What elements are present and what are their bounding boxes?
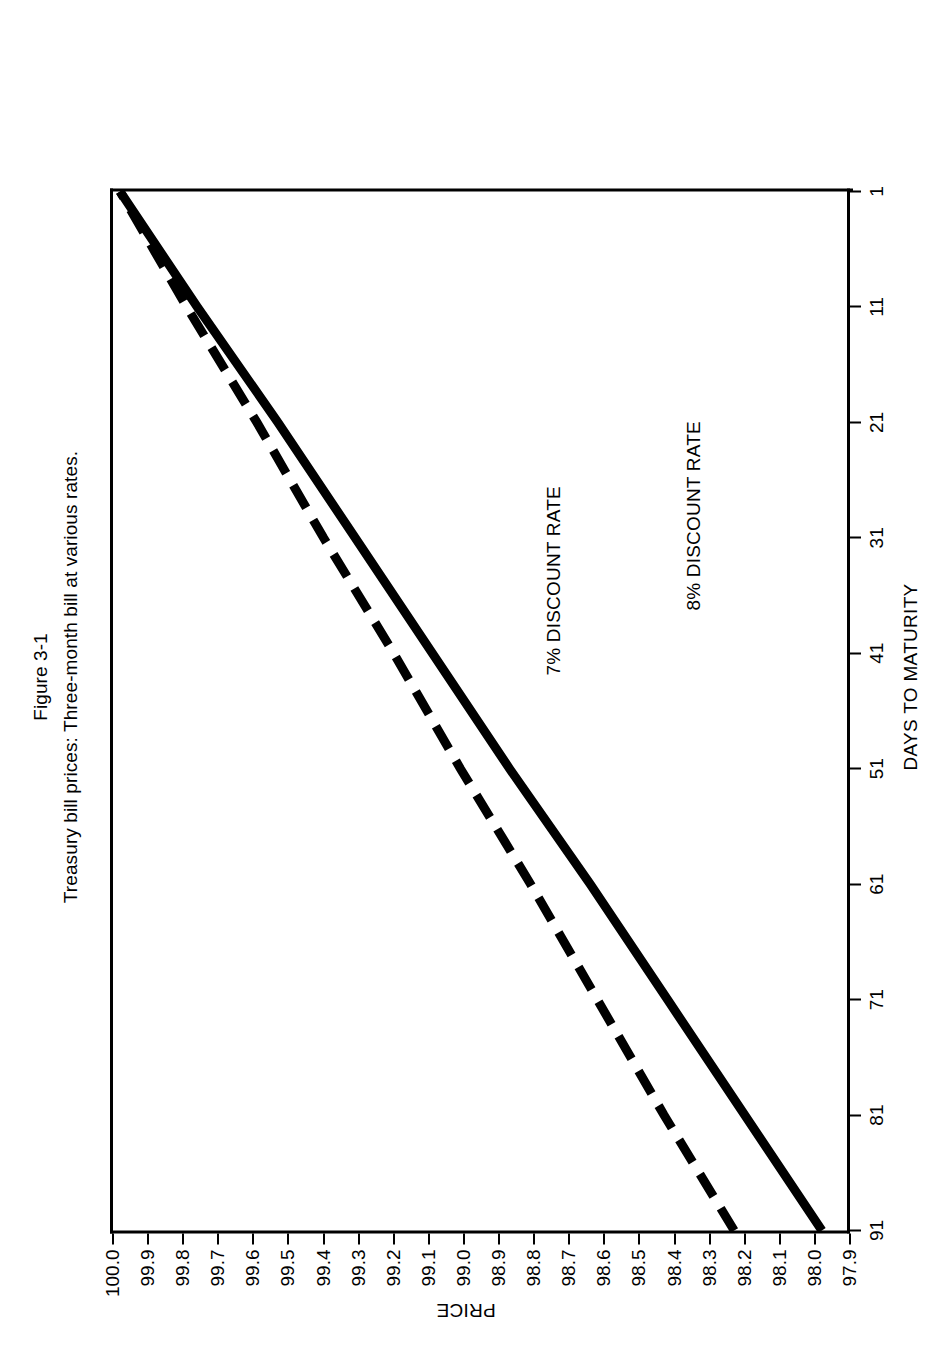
y-axis-tick-label: 97.9 [839, 1249, 861, 1343]
x-axis-tick [850, 536, 861, 538]
series-lines [113, 191, 850, 1230]
y-axis-tick-label: 99.9 [137, 1249, 159, 1343]
plot-area: 7% DISCOUNT RATE 8% DISCOUNT RATE [113, 191, 850, 1230]
y-axis-tick-label: 98.7 [558, 1249, 580, 1343]
y-axis-tick [323, 1233, 325, 1244]
y-axis-tick [252, 1233, 254, 1244]
y-axis-tick [358, 1233, 360, 1244]
y-axis-tick-label: 98.1 [769, 1249, 791, 1343]
x-axis-tick [850, 883, 861, 885]
x-axis-tick [850, 652, 861, 654]
y-axis-tick [603, 1233, 605, 1244]
x-axis-tick-label: 21 [866, 397, 888, 447]
x-axis-tick [850, 305, 861, 307]
x-axis-tick [850, 1114, 861, 1116]
series-line-8-percent [120, 191, 822, 1230]
series-line-7-percent [120, 191, 734, 1230]
y-axis-tick [533, 1233, 535, 1244]
x-axis-tick-label: 31 [866, 512, 888, 562]
y-axis-tick-label: 99.6 [242, 1249, 264, 1343]
x-axis-tick [850, 767, 861, 769]
y-axis-tick [217, 1233, 219, 1244]
figure-number: Figure 3-1 [30, 0, 52, 1353]
y-axis-tick [674, 1233, 676, 1244]
x-axis-tick-label: 71 [866, 974, 888, 1024]
y-axis-tick-label: 98.8 [523, 1249, 545, 1343]
x-axis-tick [850, 190, 861, 192]
y-axis-tick-label: 100.0 [102, 1249, 124, 1343]
x-axis-tick [850, 1229, 861, 1231]
y-axis-tick [814, 1233, 816, 1244]
y-axis-tick [287, 1233, 289, 1244]
x-axis-tick-label: 1 [866, 166, 888, 216]
y-axis-tick-label: 99.2 [383, 1249, 405, 1343]
y-axis-tick-label: 99.8 [172, 1249, 194, 1343]
y-axis-tick-label: 98.4 [664, 1249, 686, 1343]
x-axis-tick-label: 11 [866, 281, 888, 331]
y-axis-tick [428, 1233, 430, 1244]
annotation-7-percent-discount-rate: 7% DISCOUNT RATE [543, 486, 565, 675]
y-axis-tick-label: 98.6 [593, 1249, 615, 1343]
figure-canvas: Figure 3-1 Treasury bill prices: Three-m… [0, 0, 950, 1353]
y-axis-tick [112, 1233, 114, 1244]
y-axis-tick-label: 99.1 [418, 1249, 440, 1343]
y-axis-title: PRICE [386, 1298, 546, 1320]
y-axis-tick [744, 1233, 746, 1244]
x-axis-tick-label: 41 [866, 628, 888, 678]
y-axis-tick-label: 99.7 [207, 1249, 229, 1343]
y-axis-tick-label: 99.5 [277, 1249, 299, 1343]
x-axis-tick-label: 61 [866, 859, 888, 909]
y-axis-tick-label: 98.2 [734, 1249, 756, 1343]
y-axis-tick-label: 99.3 [348, 1249, 370, 1343]
annotation-8-percent-discount-rate: 8% DISCOUNT RATE [683, 421, 705, 610]
y-axis-tick [182, 1233, 184, 1244]
x-axis-tick-label: 91 [866, 1205, 888, 1255]
y-axis-tick [849, 1233, 851, 1244]
y-axis-tick [638, 1233, 640, 1244]
x-axis-tick-label: 51 [866, 743, 888, 793]
y-axis-tick [498, 1233, 500, 1244]
y-axis-tick [779, 1233, 781, 1244]
x-axis-title: DAYS TO MATURITY [900, 0, 922, 1353]
y-axis-tick-label: 98.0 [804, 1249, 826, 1343]
y-axis-tick [463, 1233, 465, 1244]
x-axis-tick [850, 998, 861, 1000]
y-axis-tick [568, 1233, 570, 1244]
y-axis-tick [393, 1233, 395, 1244]
x-axis-tick [850, 421, 861, 423]
y-axis-tick-label: 98.5 [628, 1249, 650, 1343]
figure-caption: Treasury bill prices: Three-month bill a… [60, 0, 82, 1353]
x-axis-tick-label: 81 [866, 1090, 888, 1140]
y-axis-tick-label: 98.3 [699, 1249, 721, 1343]
y-axis-tick-label: 99.0 [453, 1249, 475, 1343]
y-axis-tick-label: 98.9 [488, 1249, 510, 1343]
y-axis-tick [709, 1233, 711, 1244]
y-axis-tick-label: 99.4 [313, 1249, 335, 1343]
y-axis-tick [147, 1233, 149, 1244]
